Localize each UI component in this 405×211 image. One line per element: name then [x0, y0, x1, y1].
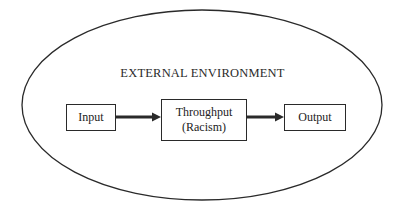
- environment-label: EXTERNAL ENVIRONMENT: [100, 66, 305, 81]
- arrow-throughput-to-output: [247, 113, 284, 122]
- input-label: Input: [78, 110, 103, 125]
- arrow-input-to-throughput: [116, 113, 161, 122]
- output-box: Output: [284, 104, 346, 131]
- input-box: Input: [66, 104, 116, 131]
- throughput-label: Throughput: [176, 105, 233, 120]
- output-label: Output: [298, 110, 331, 125]
- throughput-box: Throughput (Racism): [161, 99, 247, 141]
- throughput-sublabel: (Racism): [182, 120, 226, 135]
